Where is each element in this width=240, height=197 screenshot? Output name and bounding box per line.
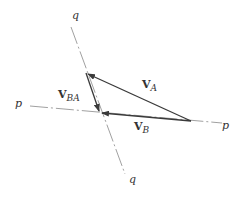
p-label-left: p — [15, 97, 22, 110]
vector-va-main: V — [141, 78, 151, 91]
vector-vb-sub: B — [142, 125, 150, 135]
p-label-right: p — [222, 119, 229, 132]
vector-vb-main: V — [133, 120, 143, 133]
vector-vba-main: V — [57, 88, 67, 101]
vector-va-sub: A — [150, 83, 158, 93]
vector-vba-sub: BA — [66, 93, 81, 103]
p-axis-line — [30, 106, 222, 123]
q-label-top: q — [72, 9, 79, 22]
vector-vba-label: VBA — [57, 88, 80, 103]
q-label-bottom: q — [129, 173, 136, 186]
vector-va-arrow — [88, 74, 191, 121]
vector-vb-label: VB — [133, 120, 150, 135]
vector-va-label: VA — [141, 78, 158, 93]
velocity-triangle-diagram: q q p p VA VBA VB — [0, 0, 240, 197]
